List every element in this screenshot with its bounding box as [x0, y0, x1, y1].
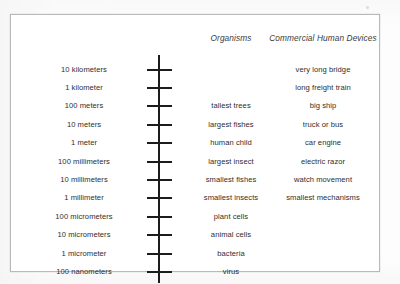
figure-frame: Organisms Commercial Human Devices 10 ki…	[10, 14, 380, 272]
device-label: car engine	[305, 139, 341, 147]
axis-tick	[147, 161, 172, 163]
axis-tick	[147, 234, 172, 236]
organism-label: virus	[223, 268, 239, 276]
axis-tick	[147, 69, 172, 71]
axis-tick	[147, 105, 172, 107]
organism-label: human child	[210, 139, 252, 147]
organism-label: smallest fishes	[206, 176, 257, 184]
device-label: very long bridge	[296, 66, 351, 74]
scale-label: 10 meters	[67, 121, 101, 129]
axis-tick	[147, 271, 172, 273]
device-label: long freight train	[295, 84, 350, 92]
device-label: smallest mechanisms	[286, 194, 360, 202]
scale-label: 1 micrometer	[62, 250, 107, 258]
scale-label: 100 meters	[65, 102, 104, 110]
scale-label: 100 nanometers	[56, 268, 112, 276]
device-label: watch movement	[294, 176, 352, 184]
organism-label: largest fishes	[208, 121, 253, 129]
organism-label: plant cells	[214, 213, 248, 221]
organism-label: bacteria	[217, 250, 244, 258]
organism-label: animal cells	[211, 231, 251, 239]
axis-tick	[147, 197, 172, 199]
device-label: truck or bus	[303, 121, 343, 129]
device-label: electric razor	[301, 158, 345, 166]
axis-tick	[147, 179, 172, 181]
axis-tick	[147, 87, 172, 89]
scale-label: 100 micrometers	[55, 213, 112, 221]
scale-comparison-figure: Organisms Commercial Human Devices 10 ki…	[0, 0, 400, 284]
axis-tick	[147, 124, 172, 126]
organism-label: largest insect	[208, 158, 253, 166]
scale-axis-line	[158, 55, 160, 283]
axis-tick	[147, 142, 172, 144]
scale-label: 1 kilometer	[65, 84, 103, 92]
axis-tick	[147, 216, 172, 218]
scale-label: 10 millimeters	[60, 176, 108, 184]
scale-label: 1 meter	[71, 139, 97, 147]
scale-label: 100 millimeters	[58, 158, 110, 166]
organism-label: smallest insects	[204, 194, 258, 202]
scale-label: 1 millimeter	[64, 194, 103, 202]
device-label: big ship	[310, 102, 337, 110]
column-header-devices: Commercial Human Devices	[269, 33, 377, 43]
scale-label: 10 kilometers	[61, 66, 107, 74]
scale-label: 10 micrometers	[57, 231, 110, 239]
scan-artifact	[366, 6, 369, 9]
column-header-organisms: Organisms	[210, 33, 251, 43]
axis-tick	[147, 253, 172, 255]
organism-label: tallest trees	[211, 102, 250, 110]
